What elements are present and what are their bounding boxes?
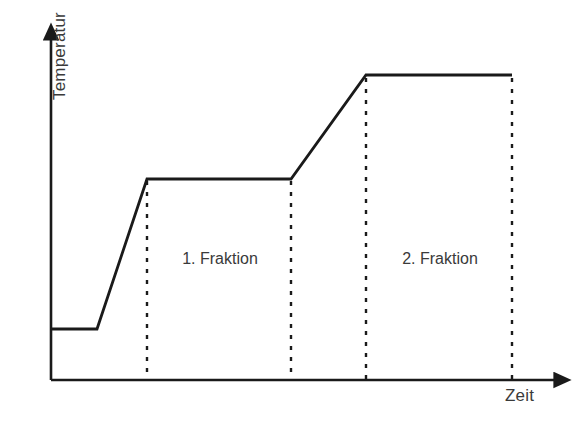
temperature-program-line (52, 75, 512, 329)
region-label-fraction-2: 2. Fraktion (380, 250, 500, 268)
temperature-program-figure: Temperatur Zeit 1. Fraktion 2. Fraktion (0, 0, 587, 421)
chart-canvas (0, 0, 587, 421)
y-axis-label: Temperatur (49, 0, 71, 116)
y-axis-label-text: Temperatur (49, 0, 71, 116)
x-axis-label: Zeit (505, 386, 534, 406)
region-label-fraction-1: 1. Fraktion (160, 250, 280, 268)
